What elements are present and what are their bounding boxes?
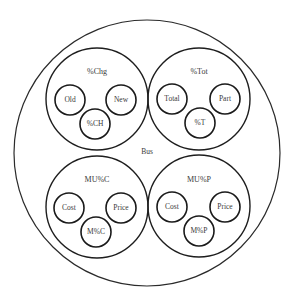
item-label: Total bbox=[164, 94, 179, 103]
group-label: MU%C bbox=[85, 175, 110, 184]
group-mupct-c: MU%CCostPriceM%C bbox=[46, 156, 148, 258]
group-label: %Tot bbox=[190, 67, 208, 76]
item-label: %CH bbox=[87, 119, 104, 128]
item-label: M%P bbox=[190, 226, 207, 235]
item-label: Cost bbox=[62, 203, 77, 212]
item-mpct-p: M%P bbox=[184, 216, 214, 246]
group-pct-chg: %ChgOldNew%CH bbox=[46, 48, 148, 150]
item-label: %T bbox=[195, 118, 206, 127]
bus-label: Bus bbox=[141, 147, 153, 156]
item-cost: Cost bbox=[54, 193, 84, 223]
item-price: Price bbox=[210, 192, 240, 222]
item-label: Price bbox=[217, 202, 233, 211]
item-part: Part bbox=[210, 84, 240, 114]
item-old: Old bbox=[55, 85, 85, 115]
item-pct-t: %T bbox=[185, 108, 215, 138]
item-label: Part bbox=[219, 94, 232, 103]
group-pct-tot: %TotTotalPart%T bbox=[148, 48, 250, 150]
nested-circle-diagram: Bus %ChgOldNew%CH%TotTotalPart%TMU%CCost… bbox=[0, 0, 291, 302]
item-pct-ch: %CH bbox=[80, 109, 110, 139]
item-label: M%C bbox=[87, 227, 105, 236]
item-cost: Cost bbox=[157, 192, 187, 222]
group-label: %Chg bbox=[87, 67, 107, 76]
item-label: New bbox=[114, 95, 129, 104]
item-new: New bbox=[106, 85, 136, 115]
item-price: Price bbox=[106, 193, 136, 223]
group-label: MU%P bbox=[187, 175, 212, 184]
group-mupct-p: MU%PCostPriceM%P bbox=[148, 155, 250, 257]
item-label: Cost bbox=[165, 202, 180, 211]
item-label: Price bbox=[113, 203, 129, 212]
item-total: Total bbox=[157, 84, 187, 114]
item-label: Old bbox=[64, 95, 76, 104]
item-mpct-c: M%C bbox=[81, 217, 111, 247]
